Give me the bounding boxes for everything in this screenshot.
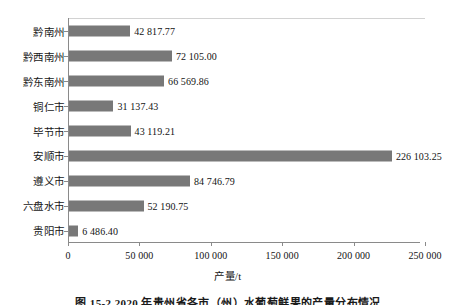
category-label: 贵阳市 xyxy=(2,218,64,243)
category-label-text: 铜仁市 xyxy=(33,99,64,114)
plot-area: 黔南州42 817.77黔西南州72 105.00黔东南州66 569.86铜仁… xyxy=(68,18,425,242)
bar-row: 遵义市84 746.79 xyxy=(68,168,425,193)
bar xyxy=(69,76,164,87)
figure-caption-text: 图 15-2 2020 年贵州省各市（州）水葡萄鲜果的产量分布情况 xyxy=(0,296,456,305)
x-axis-tick xyxy=(425,242,426,246)
category-label-text: 黔西南州 xyxy=(23,49,64,64)
x-axis-tick-label: 250 000 xyxy=(408,250,441,261)
y-axis-tick xyxy=(64,156,68,157)
bar xyxy=(69,225,78,236)
bar-row: 安顺市226 103.25 xyxy=(68,144,425,169)
x-axis-title: 产量/t xyxy=(0,268,456,283)
category-label-text: 贵阳市 xyxy=(33,223,64,238)
bar-value-label: 66 569.86 xyxy=(168,76,209,87)
category-label-text: 毕节市 xyxy=(33,124,64,139)
category-label-text: 六盘水市 xyxy=(23,198,64,213)
bar-row: 黔西南州72 105.00 xyxy=(68,44,425,69)
y-axis-tick xyxy=(64,31,68,32)
y-axis-tick xyxy=(64,231,68,232)
bar-value-label: 42 817.77 xyxy=(134,26,175,37)
x-axis-tick-label: 100 000 xyxy=(194,250,227,261)
x-axis-tick-label: 200 000 xyxy=(337,250,370,261)
x-axis-tick xyxy=(282,242,283,246)
x-axis-line xyxy=(68,242,420,243)
category-label-text: 安顺市 xyxy=(33,148,64,163)
y-axis-tick xyxy=(64,206,68,207)
x-axis-tick xyxy=(211,242,212,246)
bar xyxy=(69,101,113,112)
bar xyxy=(69,200,144,211)
bar-row: 铜仁市31 137.43 xyxy=(68,94,425,119)
category-label: 黔东南州 xyxy=(2,69,64,94)
category-label: 铜仁市 xyxy=(2,94,64,119)
figure-caption: 图 15-2 2020 年贵州省各市（州）水葡萄鲜果的产量分布情况 xyxy=(0,296,456,305)
bar-value-label: 6 486.40 xyxy=(82,225,118,236)
bar xyxy=(69,26,130,37)
bar-row: 黔东南州66 569.86 xyxy=(68,69,425,94)
y-axis-tick xyxy=(64,56,68,57)
bar xyxy=(69,126,131,137)
bar-row: 黔南州42 817.77 xyxy=(68,19,425,44)
category-label: 黔西南州 xyxy=(2,44,64,69)
bar-row: 六盘水市52 190.75 xyxy=(68,193,425,218)
x-axis-tick-label: 50 000 xyxy=(125,250,153,261)
category-label-text: 黔东南州 xyxy=(23,74,64,89)
bar-value-label: 84 746.79 xyxy=(194,175,235,186)
y-axis-tick xyxy=(64,81,68,82)
category-label: 毕节市 xyxy=(2,119,64,144)
y-axis-tick xyxy=(64,131,68,132)
bar xyxy=(69,150,392,161)
category-label: 六盘水市 xyxy=(2,193,64,218)
y-axis-tick xyxy=(64,181,68,182)
x-axis-tick xyxy=(139,242,140,246)
category-label: 遵义市 xyxy=(2,168,64,193)
category-label: 安顺市 xyxy=(2,144,64,169)
bar-value-label: 31 137.43 xyxy=(117,101,158,112)
bar-row: 贵阳市6 486.40 xyxy=(68,218,425,243)
x-axis-tick xyxy=(354,242,355,246)
bar-value-label: 72 105.00 xyxy=(176,51,217,62)
bar xyxy=(69,175,190,186)
bar-value-label: 43 119.21 xyxy=(135,126,176,137)
x-axis-tick-label: 150 000 xyxy=(266,250,299,261)
category-label-text: 遵义市 xyxy=(33,173,64,188)
category-label-text: 黔南州 xyxy=(33,24,64,39)
bar-row: 毕节市43 119.21 xyxy=(68,119,425,144)
bar-value-label: 52 190.75 xyxy=(148,200,189,211)
x-axis-tick-label: 0 xyxy=(65,250,70,261)
bar-value-label: 226 103.25 xyxy=(396,150,442,161)
category-label: 黔南州 xyxy=(2,19,64,44)
y-axis-tick xyxy=(64,106,68,107)
x-axis-tick xyxy=(68,242,69,246)
bar xyxy=(69,51,172,62)
bar-chart-figure: 黔南州42 817.77黔西南州72 105.00黔东南州66 569.86铜仁… xyxy=(0,0,456,305)
